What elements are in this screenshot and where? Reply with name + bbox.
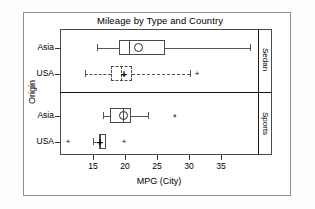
y-tick-label-sedan-usa: USA: [14, 69, 54, 78]
x-tick-mark-30: [189, 155, 190, 160]
boxplot-figure: Mileage by Type and Country Origin Asia …: [0, 0, 315, 209]
whisker-cap-high-sedan-usa: [190, 70, 191, 77]
x-tick-mark-20: [125, 155, 126, 160]
x-tick-label-20: 20: [112, 161, 138, 171]
mean-marker-sedan-usa: +: [121, 68, 127, 79]
x-tick-mark-35: [221, 155, 222, 160]
strip-label-sedan: Sedan: [258, 29, 272, 91]
strip-label-sports: Sports: [258, 93, 272, 155]
whisker-cap-low-sedan-usa: [85, 70, 86, 77]
median-sedan-asia: [129, 40, 130, 55]
x-tick-label-35: 35: [208, 161, 234, 171]
whisker-high-sedan-asia: [165, 48, 250, 49]
outlier-sports-usa-2: +: [122, 138, 127, 146]
whisker-low-sports-asia: [103, 116, 110, 117]
whisker-cap-high-sports-asia: [148, 112, 149, 119]
panel-divider: [60, 92, 272, 93]
x-axis-title: MPG (City): [60, 176, 258, 186]
whisker-low-sedan-usa: [85, 74, 111, 75]
x-tick-label-30: 30: [176, 161, 202, 171]
whisker-cap-low-sports-asia: [103, 112, 104, 119]
whisker-cap-low-sports-usa: [93, 138, 94, 145]
x-tick-mark-15: [93, 155, 94, 160]
outlier-sports-usa-1: +: [66, 138, 71, 146]
y-tick-label-sports-asia: Asia: [14, 111, 54, 120]
mean-marker-sedan-asia: [134, 43, 143, 52]
whisker-low-sedan-asia: [97, 48, 119, 49]
whisker-cap-high-sedan-asia: [250, 44, 251, 51]
whisker-high-sedan-usa: [132, 74, 190, 75]
whisker-cap-low-sedan-asia: [97, 44, 98, 51]
mean-marker-sports-asia: [119, 111, 128, 120]
mean-marker-sports-usa: +: [97, 136, 103, 147]
x-tick-label-25: 25: [144, 161, 170, 171]
chart-title: Mileage by Type and Country: [60, 14, 260, 28]
x-tick-label-15: 15: [80, 161, 106, 171]
whisker-high-sports-asia: [131, 116, 148, 117]
x-tick-mark-25: [157, 155, 158, 160]
y-tick-label-sedan-asia: Asia: [14, 43, 54, 52]
y-tick-label-sports-usa: USA: [14, 137, 54, 146]
outlier-sedan-usa-1: +: [195, 70, 200, 78]
